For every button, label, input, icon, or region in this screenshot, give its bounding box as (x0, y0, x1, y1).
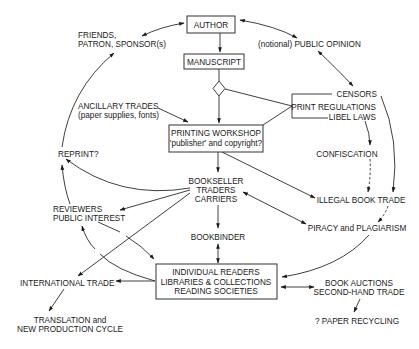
edge-ancillary-printing (158, 108, 188, 122)
decision-diamond (213, 81, 225, 96)
translation-label: TRANSLATION and (34, 316, 107, 325)
edge-readers-reviewers (82, 226, 155, 281)
edge-libel-confiscation (365, 121, 370, 145)
edge-piracy-readers (282, 235, 369, 277)
edge-illegal-piracy (378, 206, 388, 222)
public-opinion-label: (notional) PUBLIC OPINION (258, 40, 361, 49)
printing-workshop-label: PRINTING WORKSHOP (171, 129, 262, 138)
author-label: AUTHOR (194, 21, 229, 30)
edge-diamond-bracket (225, 89, 292, 106)
piracy-plagiarism-label: PIRACY and PLAGIARISM (308, 224, 407, 233)
censors-label: CENSORS (337, 90, 378, 99)
reading-societies-label: READING SOCIETIES (174, 287, 258, 296)
edge-censors-illegal (381, 96, 395, 192)
libel-laws-label: LIBEL LAWS (329, 113, 377, 122)
friends-label: FRIENDS, (78, 31, 116, 40)
publisher-copyright-label: 'publisher' and copyright? (170, 139, 263, 148)
edge-reprint-friends (62, 53, 114, 147)
edge-confiscation-illegal (368, 159, 370, 192)
edge-opinion-censors (318, 51, 353, 86)
new-production-cycle-label: NEW PRODUCTION CYCLE (17, 325, 124, 334)
second-hand-trade-label: SECOND-HAND TRADE (314, 288, 405, 297)
edge-bookseller-piracy (243, 192, 306, 224)
edge-author-friends (142, 23, 184, 36)
edge-reviewers-reprint (62, 165, 70, 204)
manuscript-label: MANUSCRIPT (187, 58, 241, 67)
bookbinder-label: BOOKBINDER (191, 233, 246, 242)
traders-label: TRADERS (196, 186, 236, 195)
book-trade-diagram: AUTHOR MANUSCRIPT PRINTING WORKSHOP 'pub… (0, 0, 419, 349)
bookseller-label: BOOKSELLER (188, 177, 243, 186)
libraries-collections-label: LIBRARIES & COLLECTIONS (161, 278, 272, 287)
paper-supplies-label: (paper supplies, fonts) (78, 111, 159, 120)
paper-recycling-label: ? PAPER RECYCLING (315, 317, 399, 326)
edge-bookseller-reprint (66, 159, 190, 191)
patron-sponsor-label: PATRON, SPONSOR(s) (78, 40, 166, 49)
edge-bookseller-reviewers (120, 190, 190, 210)
illegal-book-trade-label: ILLEGAL BOOK TRADE (317, 196, 406, 205)
edge-auctions-recycling (354, 299, 360, 312)
edge-author-opinion (240, 20, 297, 38)
edge-international-translation (49, 289, 64, 311)
edge-bracket-printing (263, 106, 292, 125)
international-trade-label: INTERNATIONAL TRADE (20, 279, 115, 288)
individual-readers-label: INDIVIDUAL READERS (172, 268, 260, 277)
ancillary-trades-label: ANCILLARY TRADES (78, 102, 159, 111)
public-interest-label: PUBLIC INTEREST (53, 214, 125, 223)
reviewers-label: REVIEWERS (53, 205, 103, 214)
edge-printing-illegal (222, 152, 315, 198)
reprint-label: REPRINT? (58, 150, 99, 159)
confiscation-label: CONFISCATION (316, 150, 377, 159)
print-regulations-label: PRINT REGULATIONS (291, 103, 376, 112)
carriers-label: CARRIERS (195, 195, 238, 204)
book-auctions-label: BOOK AUCTIONS (325, 279, 393, 288)
